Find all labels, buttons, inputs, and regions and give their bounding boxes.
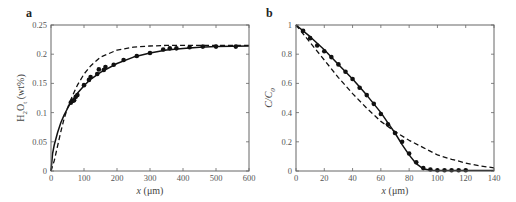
series-b [296, 25, 494, 173]
y-tick-label: 0.05 [32, 137, 47, 147]
axis-ticks-b: 02040608010012014000.20.40.60.81 [281, 20, 500, 183]
y-tick-label: 0.8 [281, 49, 292, 59]
model-line-dashed [51, 45, 249, 171]
series-a [51, 44, 249, 171]
y-tick-label: 0.1 [36, 108, 47, 118]
x-tick-label: 140 [488, 173, 501, 183]
x-tick-label: 400 [177, 173, 190, 183]
plot-frame-b [296, 25, 494, 171]
x-tick-label: 120 [459, 173, 472, 183]
y-tick-label: 0.25 [32, 20, 47, 30]
x-tick-label: 40 [348, 173, 357, 183]
fit-line-solid [296, 25, 494, 171]
fit-line-solid [51, 46, 249, 171]
model-line-dashed [296, 25, 494, 168]
chart-a: a 010020030040050060000.050.10.150.20.25… [0, 0, 258, 202]
x-tick-label: 300 [144, 173, 157, 183]
x-tick-label: 60 [377, 173, 386, 183]
y-tick-label: 0.4 [281, 108, 292, 118]
x-tick-label: 600 [243, 173, 256, 183]
x-tick-label: 0 [294, 173, 298, 183]
y-tick-label: 0.6 [281, 78, 292, 88]
x-tick-label: 100 [431, 173, 444, 183]
chart-b: b 02040608010012014000.20.40.60.81 x (μm… [258, 0, 516, 202]
data-point [97, 67, 102, 72]
panel-letter-a: a [26, 6, 32, 20]
panel-a: a 010020030040050060000.050.10.150.20.25… [0, 0, 258, 202]
y-axis-label-b: C/C0 [263, 88, 277, 108]
x-tick-label: 80 [405, 173, 414, 183]
y-tick-label: 0 [288, 166, 292, 176]
panel-b: b 02040608010012014000.20.40.60.81 x (μm… [258, 0, 516, 202]
y-tick-label: 0.15 [32, 78, 47, 88]
y-axis-label-a: H2Ot (wt%) [15, 74, 29, 121]
y-tick-label: 0 [43, 166, 47, 176]
x-tick-label: 500 [210, 173, 223, 183]
axis-ticks-a: 010020030040050060000.050.10.150.20.25 [32, 20, 255, 183]
y-tick-label: 0.2 [36, 49, 47, 59]
x-tick-label: 100 [78, 173, 91, 183]
x-axis-label-a: x (μm) [136, 185, 164, 197]
x-tick-label: 20 [320, 173, 329, 183]
x-tick-label: 200 [111, 173, 124, 183]
y-tick-label: 0.2 [281, 137, 292, 147]
x-tick-label: 0 [49, 173, 53, 183]
panel-letter-b: b [266, 6, 273, 20]
x-axis-label-b: x (μm) [381, 185, 409, 197]
y-tick-label: 1 [288, 20, 292, 30]
